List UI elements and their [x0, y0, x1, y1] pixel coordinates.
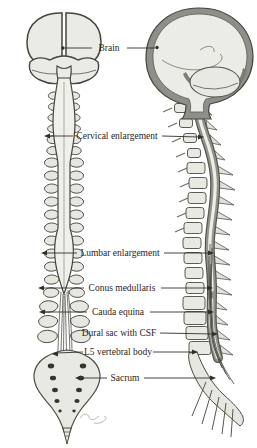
- rib-stub: [175, 228, 184, 232]
- label-text: Dural sac with CSF: [82, 328, 157, 338]
- rib-stub: [177, 213, 186, 217]
- coccyx-posterior: [63, 428, 71, 444]
- vertebral-body: [180, 119, 193, 128]
- transverse-process-left: [39, 316, 58, 328]
- label-text: Cervical enlargement: [76, 131, 158, 141]
- vertebral-body: [186, 327, 208, 340]
- vertebral-body: [187, 163, 205, 174]
- vertebral-body: [184, 223, 202, 234]
- spinous-process: [217, 330, 230, 340]
- transverse-process-left: [44, 275, 59, 284]
- spinous-process: [215, 315, 228, 325]
- transverse-process-left: [44, 210, 59, 219]
- lateral-view-figure: [146, 8, 253, 437]
- transverse-process-right: [69, 210, 84, 219]
- label-text: Brain: [98, 43, 119, 53]
- cerebellum-lateral: [190, 67, 240, 97]
- vertebral-body: [185, 268, 203, 279]
- label-text: L5 vertebral body: [84, 347, 152, 357]
- arrowhead-icon: [38, 286, 44, 291]
- transverse-process-right: [69, 158, 84, 167]
- artist-signature-flourish: [80, 414, 106, 423]
- transverse-process-right: [69, 197, 84, 206]
- spinous-process: [220, 345, 233, 355]
- dot-marker-icon: [155, 46, 158, 49]
- arrowhead-icon: [210, 376, 216, 381]
- transverse-process-left: [44, 171, 59, 180]
- rib-stub: [163, 108, 172, 112]
- rib-stub: [178, 168, 187, 172]
- transverse-process-right: [69, 184, 84, 193]
- figure-canvas: Brain Cervical enlargement Lumbar enlarg…: [0, 0, 257, 448]
- transverse-process-left: [44, 197, 59, 206]
- sacrum-lateral: [189, 352, 244, 426]
- rib-stub: [176, 153, 185, 157]
- anatomy-figure: Brain Cervical enlargement Lumbar enlarg…: [0, 0, 257, 448]
- posterior-view-figure: [27, 13, 106, 444]
- rib-stub: [168, 123, 177, 127]
- vertebral-body: [189, 178, 207, 189]
- spinous-process: [218, 180, 235, 190]
- arrowhead-icon: [41, 251, 47, 256]
- vertebral-body: [188, 193, 206, 204]
- transverse-process-left: [38, 330, 58, 342]
- transverse-process-right: [69, 171, 84, 180]
- label-text: Conus medullaris: [89, 283, 156, 293]
- vertebral-body: [184, 253, 202, 264]
- transverse-process-right: [70, 301, 88, 312]
- transverse-process-right: [69, 288, 84, 298]
- vertebral-body: [188, 149, 201, 158]
- vertebral-body: [183, 297, 205, 310]
- label-text: Sacrum: [110, 373, 140, 383]
- dot-marker-icon: [61, 46, 64, 49]
- rib-stub: [172, 138, 181, 142]
- vertebral-body: [184, 312, 206, 325]
- label-text: Cauda equina: [92, 307, 145, 317]
- transverse-process-left: [40, 301, 58, 312]
- spinous-process: [215, 285, 232, 295]
- transverse-process-left: [44, 288, 59, 298]
- vertebral-body: [186, 208, 204, 219]
- transverse-process-right: [69, 275, 84, 284]
- rib-stub: [180, 183, 189, 187]
- transverse-process-left: [44, 184, 59, 193]
- rib-stub: [179, 198, 188, 202]
- vertebral-body: [184, 134, 197, 143]
- transverse-process-right: [71, 316, 90, 328]
- transverse-process-left: [44, 158, 59, 167]
- vertebral-body: [183, 238, 201, 249]
- label-text: Lumbar enlargement: [80, 248, 160, 258]
- sacrum-posterior: [34, 350, 100, 432]
- arrowhead-icon: [44, 134, 50, 139]
